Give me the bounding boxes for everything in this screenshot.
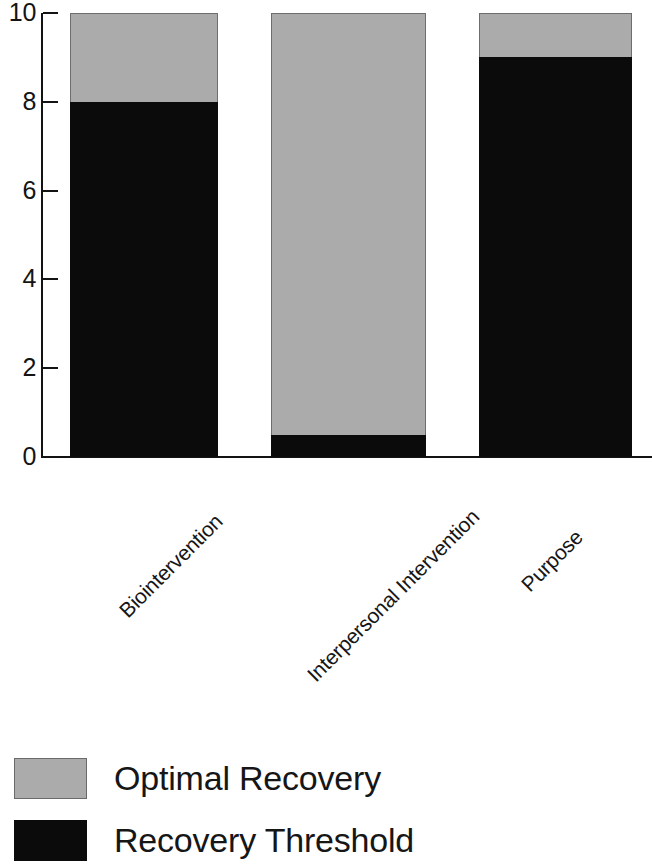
y-tick-mark <box>43 101 58 103</box>
x-axis-category-label: Interpersonal Intervention <box>303 505 483 685</box>
y-axis-line <box>41 13 43 458</box>
x-axis-category-label: Biointervention <box>115 510 226 621</box>
legend-label-recovery-threshold: Recovery Threshold <box>114 817 414 863</box>
y-tick-label: 6 <box>2 178 36 203</box>
bar-segment-recovery-threshold[interactable] <box>271 435 426 457</box>
bar-group[interactable] <box>271 13 426 457</box>
legend-label-optimal-recovery: Optimal Recovery <box>114 755 381 801</box>
x-axis-category-label: Purpose <box>517 526 586 595</box>
legend-item-recovery-threshold: Recovery Threshold <box>14 817 634 864</box>
bar-segment-recovery-threshold[interactable] <box>479 57 632 457</box>
bar-segment-recovery-threshold[interactable] <box>70 102 218 457</box>
legend-item-optimal-recovery: Optimal Recovery <box>14 755 634 817</box>
legend-swatch-icon-optimal-recovery <box>14 758 87 799</box>
y-tick-mark <box>43 367 58 369</box>
y-tick-label: 2 <box>2 355 36 380</box>
y-tick-label: 4 <box>2 266 36 291</box>
bar-segment-optimal-recovery[interactable] <box>479 13 632 57</box>
y-tick-mark <box>43 190 58 192</box>
stacked-bar-chart: 1086420 BiointerventionInterpersonal Int… <box>0 0 652 864</box>
y-tick-mark <box>43 456 58 458</box>
bar-group[interactable] <box>70 13 218 457</box>
y-tick-mark <box>43 12 58 14</box>
legend-swatch-icon-recovery-threshold <box>14 820 87 861</box>
bar-segment-optimal-recovery[interactable] <box>271 13 426 435</box>
y-tick-label: 10 <box>2 0 36 25</box>
y-tick-mark <box>43 278 58 280</box>
chart-legend: Optimal Recovery Recovery Threshold <box>14 755 634 864</box>
y-tick-label: 0 <box>2 444 36 469</box>
y-tick-label: 8 <box>2 89 36 114</box>
bar-group[interactable] <box>479 13 632 457</box>
bar-segment-optimal-recovery[interactable] <box>70 13 218 102</box>
